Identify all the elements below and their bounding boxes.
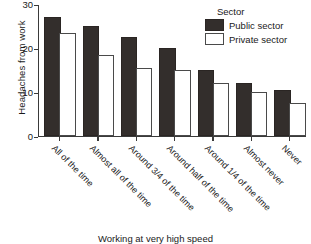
x-tick-mark (97, 137, 98, 141)
y-axis-line (38, 5, 39, 137)
legend: Sector Public sector Private sector (205, 6, 309, 47)
legend-swatch-private-sector (205, 33, 224, 45)
x-category-label: Around 1/4 of the time (203, 143, 273, 213)
y-tick-mark (34, 49, 38, 50)
bar-private-sector[interactable] (289, 103, 306, 136)
y-tick-label: 30 (22, 0, 33, 10)
bar-group (83, 4, 113, 136)
y-tick-label: 10 (22, 87, 33, 98)
legend-label-private-sector: Private sector (229, 34, 287, 45)
x-category-label: Never (280, 143, 304, 167)
y-tick-label: 20 (22, 43, 33, 54)
bar-private-sector[interactable] (136, 68, 153, 136)
x-axis-title: Working at very high speed (0, 233, 311, 244)
legend-title: Sector (217, 6, 309, 17)
x-category-label: Around 3/4 of the time (127, 143, 197, 213)
x-axis-line (38, 136, 306, 137)
bar-group (44, 4, 74, 136)
x-tick-mark (212, 137, 213, 141)
x-tick-mark (289, 137, 290, 141)
legend-swatch-public-sector (205, 19, 224, 31)
bar-private-sector[interactable] (59, 33, 76, 136)
bar-group (121, 4, 151, 136)
bar-private-sector[interactable] (213, 83, 230, 136)
bar-private-sector[interactable] (98, 55, 115, 136)
legend-label-public-sector: Public sector (229, 20, 283, 31)
y-tick-mark (34, 93, 38, 94)
bar-private-sector[interactable] (251, 92, 268, 136)
y-tick-mark (34, 5, 38, 6)
x-category-label: Around half of the time (165, 143, 236, 214)
bar-private-sector[interactable] (174, 70, 191, 136)
legend-item-public-sector[interactable]: Public sector (205, 19, 309, 31)
x-tick-mark (136, 137, 137, 141)
y-axis-title: Headaches from work (16, 3, 27, 133)
x-tick-mark (251, 137, 252, 141)
x-tick-mark (59, 137, 60, 141)
bar-group (159, 4, 189, 136)
y-tick-mark (34, 137, 38, 138)
x-tick-mark (174, 137, 175, 141)
y-tick-label: 0 (28, 131, 33, 142)
legend-item-private-sector[interactable]: Private sector (205, 33, 309, 45)
